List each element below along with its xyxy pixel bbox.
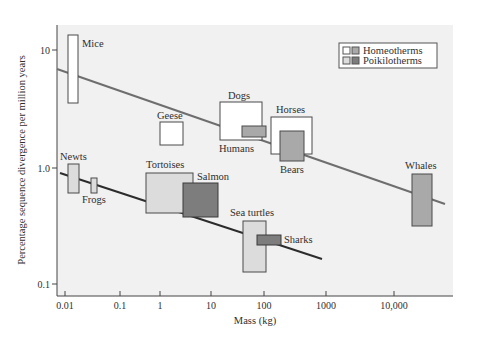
box-bears [280, 131, 304, 161]
label-salmon: Salmon [197, 171, 230, 182]
box-geese [160, 122, 183, 145]
label-tortoises: Tortoises [146, 159, 184, 170]
x-tick-label: 10 [206, 300, 216, 311]
box-newts [68, 164, 79, 193]
label-horses: Horses [276, 104, 305, 115]
y-ticks: 10 1.0 0.1 [38, 45, 58, 290]
y-tick-label: 10 [40, 45, 50, 56]
label-sea-turtles: Sea turtles [230, 207, 274, 218]
label-frogs: Frogs [82, 194, 106, 205]
box-sea-turtles [243, 221, 266, 272]
y-axis-title: Percentage sequence divergence per milli… [16, 55, 27, 264]
label-bears: Bears [280, 164, 304, 175]
legend-swatch-poikilo-dark [352, 57, 359, 64]
x-tick-label: 0.01 [56, 300, 74, 311]
label-geese: Geese [157, 110, 183, 121]
box-whales [412, 174, 432, 226]
box-frogs [91, 178, 97, 193]
label-whales: Whales [405, 160, 437, 171]
x-tick-label: 1 [158, 300, 163, 311]
box-mice [68, 35, 78, 103]
x-tick-label: 0.1 [114, 300, 127, 311]
legend: Homeotherms Poikilotherms [339, 43, 437, 68]
x-tick-label: 10,000 [380, 300, 408, 311]
x-axis-title: Mass (kg) [234, 315, 277, 327]
box-sharks [257, 235, 281, 245]
legend-swatch-homeo-light [343, 47, 350, 54]
label-mice: Mice [82, 38, 104, 49]
legend-swatch-poikilo-light [343, 57, 350, 64]
legend-swatch-homeo-dark [352, 47, 359, 54]
y-tick-label: 0.1 [38, 279, 51, 290]
legend-poikilotherms: Poikilotherms [363, 55, 422, 66]
label-newts: Newts [60, 151, 87, 162]
chart: 10 1.0 0.1 0.01 0.1 1 10 100 1000 10,000… [0, 0, 483, 340]
x-tick-label: 100 [257, 300, 272, 311]
label-humans: Humans [219, 143, 254, 154]
box-salmon [183, 183, 218, 217]
label-dogs: Dogs [228, 90, 250, 101]
y-tick-label: 1.0 [38, 163, 51, 174]
box-humans [242, 126, 266, 137]
label-sharks: Sharks [284, 234, 313, 245]
x-tick-label: 1000 [316, 300, 336, 311]
